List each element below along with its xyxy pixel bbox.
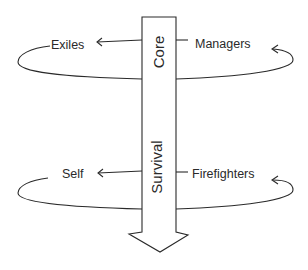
self-connector (98, 169, 142, 177)
top-loop-right-curve (176, 49, 293, 79)
exiles-label: Exiles (51, 38, 84, 52)
managers-label: Managers (195, 37, 251, 51)
exiles-arrow-line (97, 40, 142, 42)
firefighters-label: Firefighters (192, 167, 255, 181)
bottom-loop-left-curve (18, 178, 142, 209)
self-label: Self (62, 167, 84, 181)
self-arrow-line (98, 171, 142, 173)
core-label: Core (150, 36, 167, 69)
bottom-loop-right-curve (176, 180, 293, 209)
ifs-spiral-diagram: Core Survival Exiles Managers Self Firef… (0, 0, 308, 270)
survival-label: Survival (148, 140, 165, 193)
exiles-connector (97, 38, 142, 46)
